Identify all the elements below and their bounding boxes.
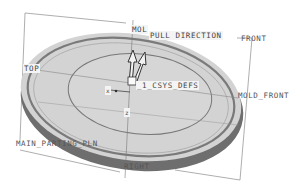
label-mold-front-datum[interactable]: MOLD_FRONT bbox=[238, 91, 289, 100]
datum-plane-front-outline bbox=[25, 13, 126, 23]
label-top-datum[interactable]: TOP bbox=[23, 64, 40, 73]
right-plane-bottom bbox=[175, 170, 240, 180]
label-pull-direction[interactable]: PULL DIRECTION bbox=[149, 31, 223, 40]
label-csys-defs[interactable]: _1_CSYS_DEFS bbox=[136, 81, 199, 90]
label-front-datum[interactable]: FRONT bbox=[241, 34, 267, 43]
cad-graphics-viewport[interactable]: MOL PULL DIRECTION FRONT TOP _1_CSYS_DEF… bbox=[0, 0, 308, 189]
label-mold-partial[interactable]: MOL bbox=[131, 25, 148, 34]
label-right-datum[interactable]: RIGHT bbox=[124, 162, 150, 171]
label-axis-z: z bbox=[124, 108, 130, 117]
label-main-parting-pln[interactable]: MAIN_PARTING_PLN bbox=[16, 139, 98, 148]
label-axis-x: x bbox=[105, 86, 111, 95]
csys-origin bbox=[115, 90, 118, 93]
csys-marker bbox=[128, 77, 136, 85]
